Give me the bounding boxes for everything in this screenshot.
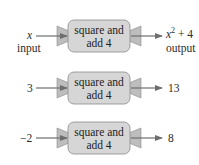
function-box-text-2: square and add 4 [70, 76, 128, 101]
input-value-2: 3 [27, 82, 33, 94]
function-box-text-1: square and add 4 [70, 24, 128, 49]
function-rule-line2: add 4 [70, 89, 128, 102]
function-rule-line1: square and [70, 76, 128, 89]
output-value-2: 13 [168, 82, 180, 94]
input-value-1: x [27, 29, 32, 41]
function-rule-line1: square and [70, 24, 128, 37]
output-rest: + 4 [175, 28, 193, 40]
output-value-3: 8 [168, 132, 174, 144]
function-rule-line2: add 4 [70, 139, 128, 152]
input-value-3: −2 [20, 132, 32, 144]
output-value-1: x2 + 4 [166, 28, 193, 40]
function-rule-line2: add 4 [70, 37, 128, 50]
function-rule-line1: square and [70, 126, 128, 139]
input-label: input [17, 42, 41, 54]
function-box-text-3: square and add 4 [70, 126, 128, 151]
output-label: output [166, 42, 195, 54]
